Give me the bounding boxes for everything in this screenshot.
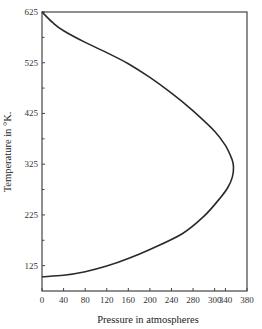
x-tick-label: 200 bbox=[143, 295, 157, 305]
y-tick-label: 325 bbox=[25, 159, 39, 169]
x-tick-label: 280 bbox=[186, 295, 200, 305]
y-axis-title: Temperature in °K. bbox=[2, 112, 13, 193]
x-tick-label: 80 bbox=[81, 295, 91, 305]
x-tick-label: 40 bbox=[59, 295, 69, 305]
chart: 04080120160200240280300340380 1252253254… bbox=[0, 0, 262, 329]
plot-border bbox=[42, 12, 247, 291]
y-tick-label: 125 bbox=[25, 261, 39, 271]
x-tick-label: 340 bbox=[219, 295, 233, 305]
x-tick-label: 0 bbox=[40, 295, 45, 305]
x-axis-title: Pressure in atmospheres bbox=[97, 314, 198, 325]
x-tick-label: 160 bbox=[122, 295, 136, 305]
x-tick-label: 240 bbox=[165, 295, 179, 305]
y-tick-label: 425 bbox=[25, 108, 39, 118]
y-tick-label: 225 bbox=[25, 210, 39, 220]
x-tick-label: 380 bbox=[240, 295, 254, 305]
y-tick-label: 625 bbox=[25, 7, 39, 17]
data-curve bbox=[42, 12, 234, 277]
y-tick-label: 525 bbox=[25, 58, 39, 68]
x-tick-label: 120 bbox=[100, 295, 114, 305]
plot-frame bbox=[42, 12, 247, 291]
